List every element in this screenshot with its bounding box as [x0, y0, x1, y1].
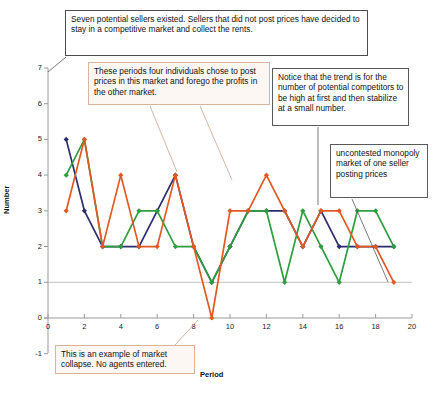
- y-tick-label: -1: [26, 349, 42, 358]
- y-tick-label: 2: [26, 242, 42, 251]
- annotation-periods: These periods four individuals chose to …: [88, 62, 270, 105]
- y-tick-label: 6: [26, 99, 42, 108]
- x-tick-label: 2: [76, 322, 92, 331]
- y-tick-label: 3: [26, 206, 42, 215]
- x-tick-label: 20: [404, 322, 420, 331]
- data-point-marker: [64, 208, 69, 213]
- x-tick-label: 10: [222, 322, 238, 331]
- y-tick-label: 1: [26, 277, 42, 286]
- x-tick-label: 18: [368, 322, 384, 331]
- data-point-marker: [264, 208, 269, 213]
- data-point-marker: [64, 137, 69, 142]
- annotation-monopoly: uncontested monopoly market of one selle…: [330, 144, 428, 198]
- data-point-marker: [209, 315, 214, 320]
- y-tick-label: 5: [26, 134, 42, 143]
- data-point-marker: [118, 173, 123, 178]
- y-tick-label: 7: [26, 63, 42, 72]
- chart-screenshot: Number Period 76543210-1 024681012141618…: [0, 0, 439, 398]
- annotation-collapse: This is an example of market collapse. N…: [55, 345, 195, 374]
- x-tick-label: 8: [186, 322, 202, 331]
- y-tick-label: 4: [26, 170, 42, 179]
- x-axis-title: Period: [200, 370, 223, 379]
- annotation-sellers: Seven potential sellers existed. Sellers…: [65, 10, 368, 56]
- data-point-marker: [227, 208, 232, 213]
- data-point-marker: [155, 244, 160, 249]
- x-tick-label: 12: [258, 322, 274, 331]
- line-chart-plot: [0, 0, 439, 398]
- x-tick-label: 0: [40, 322, 56, 331]
- y-tick-label: 0: [26, 313, 42, 322]
- annotation-trend: Notice that the trend is for the number …: [272, 68, 409, 126]
- x-axis-ticks: [48, 314, 412, 318]
- x-tick-label: 4: [113, 322, 129, 331]
- x-tick-label: 14: [295, 322, 311, 331]
- x-tick-label: 16: [331, 322, 347, 331]
- y-axis-title: Number: [2, 186, 11, 214]
- data-point-marker: [282, 280, 287, 285]
- y-axis-ticks: [44, 68, 48, 354]
- x-tick-label: 6: [149, 322, 165, 331]
- data-point-marker: [355, 208, 360, 213]
